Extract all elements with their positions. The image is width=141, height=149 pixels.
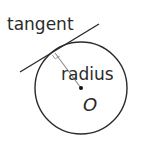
tangent-radius-diagram: tangent radius O xyxy=(0,0,141,149)
radius-label: radius xyxy=(61,64,114,84)
center-point xyxy=(79,86,83,90)
center-label: O xyxy=(83,94,97,115)
tangent-label: tangent xyxy=(7,14,74,34)
